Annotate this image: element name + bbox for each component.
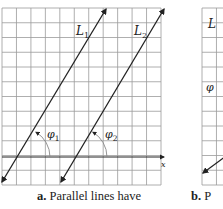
panel-b-line-label: L [207, 17, 216, 31]
caption-letter-a: a. [37, 189, 46, 203]
x-axis-label: x [161, 160, 166, 169]
line-label-L1: L1 [75, 24, 89, 40]
caption-text-b: P [204, 189, 211, 203]
caption-panel-a: a. Parallel lines have [37, 190, 141, 203]
angle-label-phi-1: φ1 [47, 128, 59, 143]
grid-panel-b [202, 8, 223, 185]
panel-b-partial: Lφ [203, 17, 223, 173]
panel-b-angle-label: φ [206, 81, 214, 94]
angle-label-phi-2: φ2 [105, 128, 118, 143]
line-label-L2: L2 [133, 24, 147, 40]
caption-panel-b: b. P [191, 190, 211, 203]
caption-letter-b: b. [191, 189, 201, 203]
diagram-canvas: x φ1φ2L1L2 Lφ [0, 0, 223, 209]
line-L1 [2, 9, 106, 182]
caption-text-a: Parallel lines have [50, 189, 142, 203]
x-axis: x [2, 157, 166, 169]
